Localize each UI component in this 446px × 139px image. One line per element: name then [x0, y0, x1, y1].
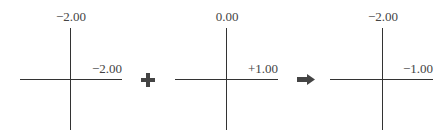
- top-value-label: −2.00: [368, 10, 398, 24]
- arrow-right-icon: [297, 74, 315, 85]
- top-value-label: −2.00: [56, 10, 86, 24]
- axes-panel-1: −2.00 −2.00: [18, 0, 122, 139]
- right-value-label: −2.00: [92, 62, 122, 76]
- horizontal-axis: [330, 79, 433, 80]
- horizontal-axis: [175, 79, 278, 80]
- plus-icon: [141, 73, 155, 87]
- right-value-label: −1.00: [403, 62, 433, 76]
- horizontal-axis: [20, 79, 122, 80]
- top-value-label: 0.00: [216, 10, 239, 24]
- axes-panel-3: −2.00 −1.00: [330, 0, 434, 139]
- axes-panel-2: 0.00 +1.00: [174, 0, 278, 139]
- right-value-label: +1.00: [248, 62, 278, 76]
